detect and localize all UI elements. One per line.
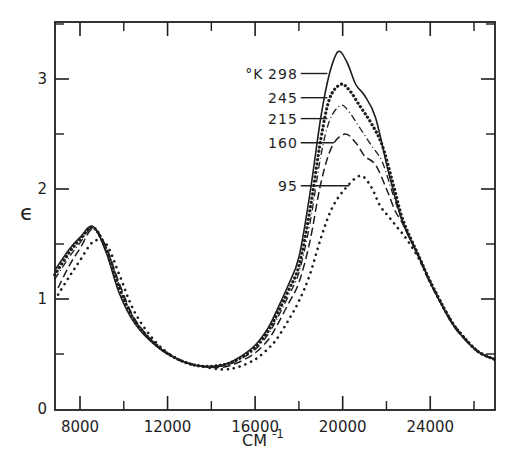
y-tick-label: 3	[37, 70, 47, 88]
y-tick-labels: 0123	[37, 70, 47, 418]
series-95K-curve	[58, 176, 495, 370]
absorption-spectrum-chart: 800012000160002000024000 0123 °K29824521…	[0, 0, 513, 466]
x-tick-label: 12000	[144, 418, 192, 436]
series-160K-curve	[58, 134, 495, 368]
legend-unit-label: °K	[245, 66, 263, 82]
x-axis-label-text: CM	[242, 431, 267, 450]
y-tick-label: 1	[37, 290, 47, 308]
legend-label-215K: 215	[268, 111, 298, 127]
legend-label-298K: 298	[268, 66, 298, 82]
x-tick-label: 24000	[406, 418, 454, 436]
x-axis-label: CM -1	[242, 427, 284, 450]
legend-label-245K: 245	[268, 90, 298, 106]
x-tick-label: 8000	[61, 418, 99, 436]
x-axis-label-superscript: -1	[272, 427, 284, 441]
y-axis-label: ϵ	[20, 200, 34, 225]
legend-label-95K: 95	[278, 178, 298, 194]
y-tick-label: 0	[37, 400, 47, 418]
y-tick-label: 2	[37, 180, 47, 198]
legend-label-160K: 160	[268, 135, 298, 151]
x-tick-label: 20000	[319, 418, 367, 436]
temperature-legend: °K29824521516095	[245, 66, 349, 194]
